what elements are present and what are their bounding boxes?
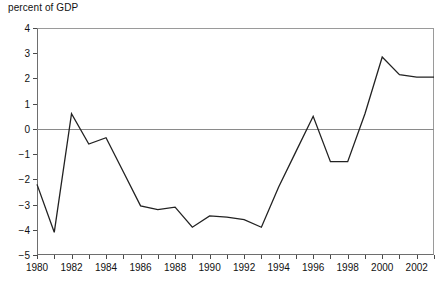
x-axis-tick — [210, 255, 211, 259]
x-axis-tick — [434, 255, 435, 259]
x-axis-tick — [158, 255, 159, 259]
x-axis-tick-label: 2002 — [397, 262, 437, 273]
series-layer — [37, 28, 434, 255]
x-axis-tick — [313, 255, 314, 259]
line-series-percent-of-gdp — [37, 57, 434, 232]
y-axis-tick-label: −5 — [10, 250, 30, 261]
y-axis-tick — [33, 154, 37, 155]
x-axis-tick — [244, 255, 245, 259]
y-axis-tick-label: 4 — [10, 23, 30, 34]
x-axis-tick — [417, 255, 418, 259]
y-axis-tick-label: 1 — [10, 98, 30, 109]
x-axis-tick — [54, 255, 55, 259]
y-axis-tick — [33, 53, 37, 54]
y-axis-tick-label: −4 — [10, 224, 30, 235]
y-axis-tick — [33, 129, 37, 130]
x-axis-tick — [261, 255, 262, 259]
y-axis-tick-label: 0 — [10, 123, 30, 134]
y-axis-tick-label: −3 — [10, 199, 30, 210]
y-axis-tick-label: −2 — [10, 174, 30, 185]
y-axis-tick — [33, 230, 37, 231]
x-axis-tick — [89, 255, 90, 259]
x-axis-tick — [141, 255, 142, 259]
y-axis-tick-label: −1 — [10, 149, 30, 160]
y-axis-tick — [33, 205, 37, 206]
x-axis-tick — [365, 255, 366, 259]
x-axis-tick — [72, 255, 73, 259]
chart-container: percent of GDP 43210−1−2−3−4−5 198019821… — [0, 0, 446, 293]
x-axis-tick — [296, 255, 297, 259]
x-axis-tick — [279, 255, 280, 259]
x-axis-tick — [123, 255, 124, 259]
x-axis-tick — [348, 255, 349, 259]
x-axis-tick — [106, 255, 107, 259]
x-axis-tick — [175, 255, 176, 259]
plot-area — [37, 28, 434, 255]
y-axis-tick — [33, 28, 37, 29]
y-axis-tick — [33, 78, 37, 79]
chart-title: percent of GDP — [8, 2, 78, 13]
x-axis-tick — [227, 255, 228, 259]
x-axis-tick — [330, 255, 331, 259]
x-axis-tick — [37, 255, 38, 259]
y-axis-tick — [33, 104, 37, 105]
x-axis-tick — [399, 255, 400, 259]
y-axis-tick-label: 3 — [10, 48, 30, 59]
x-axis-tick — [192, 255, 193, 259]
x-axis-tick — [382, 255, 383, 259]
y-axis-tick-label: 2 — [10, 73, 30, 84]
y-axis-tick — [33, 179, 37, 180]
